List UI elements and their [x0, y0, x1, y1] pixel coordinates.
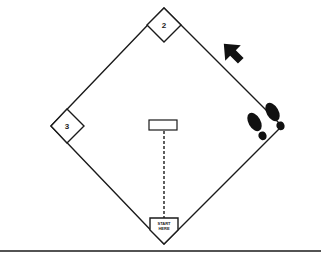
home-plate-label-line2: HERE — [158, 226, 169, 231]
baseball-diamond-diagram: 2 3 START HERE — [0, 0, 321, 259]
second-base-label: 2 — [162, 21, 167, 30]
third-base: 3 — [51, 109, 84, 143]
second-base: 2 — [147, 8, 181, 42]
home-plate: START HERE — [150, 218, 178, 244]
footprints-icon — [244, 100, 288, 142]
direction-arrow-icon — [216, 36, 249, 69]
third-base-label: 3 — [65, 122, 70, 131]
pitcher-rubber — [149, 120, 177, 130]
